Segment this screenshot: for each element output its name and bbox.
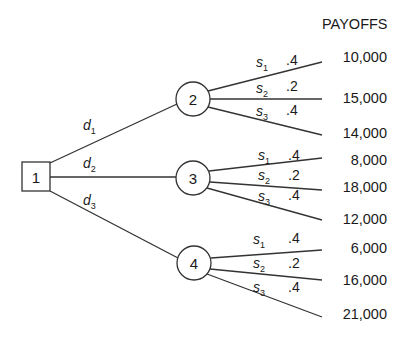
decision-tree: PAYOFFS d1 d2 d3 1 2 3 4 s1 .4 s2 .2 s3 … xyxy=(0,0,398,343)
state-label-n2-s2: s2 xyxy=(256,80,268,99)
decision-node-1-label: 1 xyxy=(32,169,40,186)
decision-label-d2: d2 xyxy=(83,155,96,174)
decision-branch-d1 xyxy=(50,104,177,163)
decision-label-d1: d1 xyxy=(83,117,96,136)
state-label-n4-s1: s1 xyxy=(253,231,265,250)
payoff-n2-s3: 14,000 xyxy=(343,125,387,141)
payoffs-header: PAYOFFS xyxy=(322,16,388,32)
prob-label-n2-s1: .4 xyxy=(286,52,298,68)
payoff-n4-s1: 6,000 xyxy=(351,240,387,256)
prob-label-n2-s2: .2 xyxy=(286,78,298,94)
state-label-n3-s2: s2 xyxy=(258,167,270,186)
payoff-n4-s2: 16,000 xyxy=(343,272,387,288)
prob-label-n4-s1: .4 xyxy=(288,230,300,246)
decision-branch-d3 xyxy=(50,191,178,258)
prob-label-n3-s3: .4 xyxy=(288,187,300,203)
state-label-n3-s1: s1 xyxy=(258,147,270,166)
prob-label-n2-s3: .4 xyxy=(286,102,298,118)
prob-label-n3-s1: .4 xyxy=(288,147,300,163)
decision-label-d3: d3 xyxy=(83,192,96,211)
state-label-n2-s1: s1 xyxy=(256,54,268,73)
payoff-n4-s3: 21,000 xyxy=(343,306,387,322)
branch-n4-s2 xyxy=(210,269,322,280)
payoff-n2-s1: 10,000 xyxy=(343,49,387,65)
chance-node-4-label: 4 xyxy=(190,255,198,272)
prob-label-n3-s2: .2 xyxy=(288,167,300,183)
payoff-n3-s2: 18,000 xyxy=(343,179,387,195)
state-label-n4-s3: s3 xyxy=(253,279,265,298)
prob-label-n4-s3: .4 xyxy=(288,279,300,295)
state-label-n4-s2: s2 xyxy=(253,255,265,274)
payoff-n3-s3: 12,000 xyxy=(343,211,387,227)
branch-n4-s1 xyxy=(211,250,322,258)
chance-node-2-label: 2 xyxy=(189,91,197,108)
prob-label-n4-s2: .2 xyxy=(288,255,300,271)
chance-node-3-label: 3 xyxy=(189,170,197,187)
payoff-n3-s1: 8,000 xyxy=(351,152,387,168)
payoff-n2-s2: 15,000 xyxy=(343,90,387,106)
